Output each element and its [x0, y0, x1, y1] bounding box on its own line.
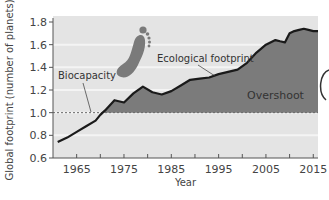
x-tick-label: 1965: [63, 163, 91, 176]
x-axis-title: Year: [174, 177, 197, 188]
y-axis-title: Global footprint (number of planets): [4, 0, 15, 181]
y-tick-label: 1.8: [30, 16, 48, 29]
y-tick-label: 0.6: [30, 152, 48, 165]
x-tick-label: 1985: [157, 163, 185, 176]
y-tick-label: 1.0: [30, 107, 48, 120]
x-tick-label: 1975: [110, 163, 138, 176]
footprint-toe: [146, 32, 150, 36]
footprint-toe: [139, 26, 146, 33]
footprint-toe: [148, 45, 151, 48]
footprint-toe: [147, 36, 150, 39]
ecological-footprint-label: Ecological footprint: [157, 53, 254, 64]
x-tick-label: 2005: [252, 163, 280, 176]
y-tick-label: 1.2: [30, 84, 48, 97]
x-tick-label: 1995: [205, 163, 233, 176]
y-tick-label: 1.6: [30, 39, 48, 52]
y-tick-label: 0.8: [30, 129, 48, 142]
footprint-toe: [148, 41, 151, 44]
cropped-edge-shape: [321, 70, 329, 100]
footprint-chart: 0.60.81.01.21.41.61.81965197519851995200…: [0, 0, 329, 200]
x-tick-label: 2015: [299, 163, 327, 176]
biocapacity-label: Biocapacity: [58, 70, 116, 81]
overshoot-label: Overshoot: [247, 89, 305, 102]
y-tick-label: 1.4: [30, 61, 48, 74]
